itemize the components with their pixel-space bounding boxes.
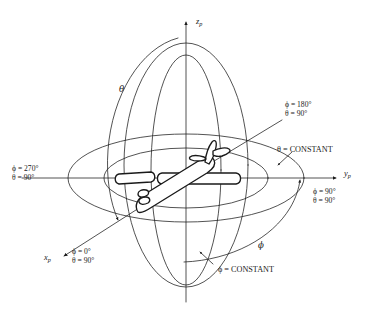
- callout-upper-right: ϕ = 180° θ = 90°: [285, 101, 312, 119]
- aircraft-left-wing: [115, 172, 155, 184]
- x-axis-subscript: p: [48, 256, 51, 263]
- y-axis-subscript: p: [348, 172, 351, 179]
- aircraft-tailplane-left: [189, 156, 206, 162]
- y-axis-label: yp: [344, 169, 351, 179]
- aircraft-fuselage: [136, 157, 214, 213]
- phi-constant-leader-line: [200, 252, 213, 264]
- aircraft-tailplane-right: [213, 148, 230, 156]
- callout-upper-right-line2: θ = 90°: [285, 110, 312, 119]
- callout-right-line2: θ = 90°: [313, 197, 336, 206]
- z-axis-label: zp: [196, 17, 202, 27]
- callout-lower-left-line2: θ = 90°: [72, 257, 94, 266]
- callout-left: ϕ = 270° θ = 90°: [12, 165, 39, 183]
- callout-lower-left: ϕ = 0° θ = 90°: [72, 248, 94, 266]
- aircraft-nacelle-upper: [138, 190, 149, 197]
- callout-left-line2: θ = 90°: [12, 174, 39, 183]
- aircraft-outline: [115, 141, 240, 213]
- callout-theta-constant: θ = CONSTANT: [277, 145, 333, 155]
- callout-phi-constant: ϕ = CONSTANT: [218, 265, 274, 275]
- callout-right: ϕ = 90° θ = 90°: [313, 188, 336, 206]
- theta-symbol-label: θ: [119, 84, 124, 94]
- phi-sweep-arc: [184, 180, 300, 262]
- phi-symbol-label: ϕ: [258, 240, 264, 250]
- diagram-vector-layer: [0, 0, 372, 311]
- figure-canvas: zp yp xp θ ϕ ϕ = 270° θ = 90° ϕ = 90° θ …: [0, 0, 372, 311]
- x-axis-label: xp: [44, 253, 51, 263]
- aircraft-nacelle-lower: [139, 197, 150, 204]
- z-axis-subscript: p: [199, 20, 202, 27]
